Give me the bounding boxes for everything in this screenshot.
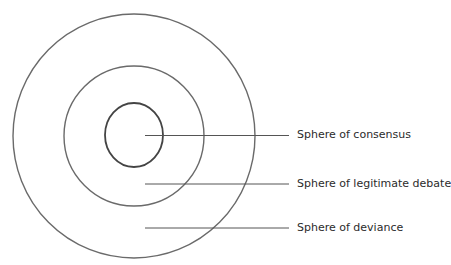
label-sphere-of-consensus: Sphere of consensus (297, 128, 411, 142)
label-sphere-of-deviance: Sphere of deviance (297, 221, 403, 235)
label-sphere-of-legitimate-debate: Sphere of legitimate debate (297, 177, 451, 191)
